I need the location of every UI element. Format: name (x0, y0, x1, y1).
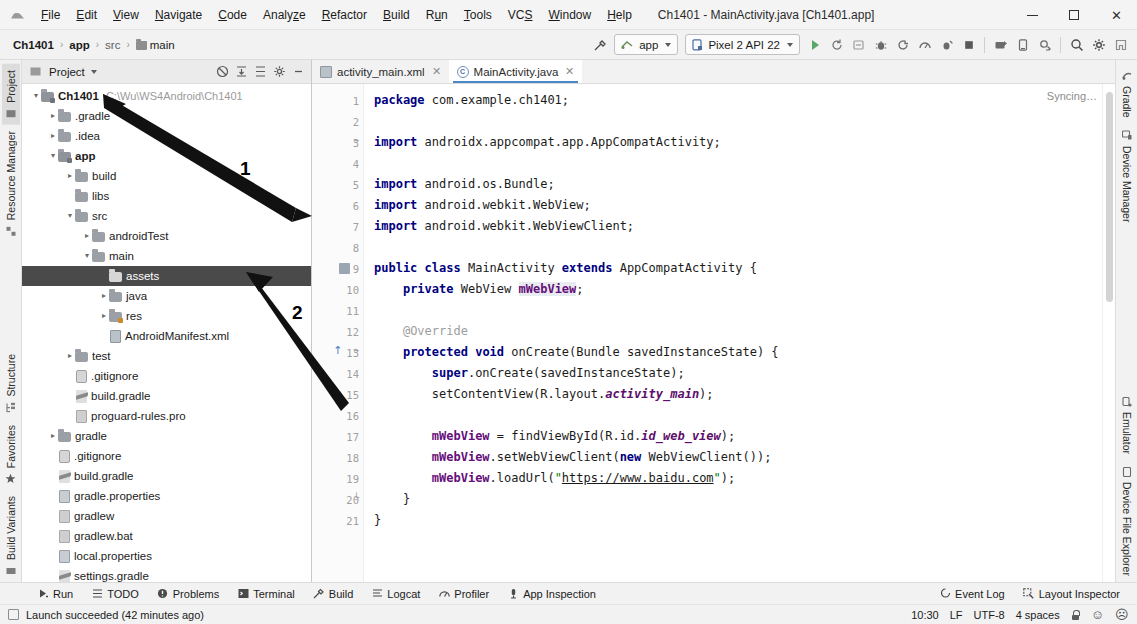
code-line[interactable]: } (374, 510, 1102, 531)
chevron-down-icon[interactable]: ▾ (81, 252, 92, 260)
tree-node-ch1401[interactable]: ▾Ch1401C:\Wu\WS4Android\Ch1401 (22, 86, 311, 106)
menu-run[interactable]: Run (418, 5, 456, 25)
menu-navigate[interactable]: Navigate (147, 5, 210, 25)
code-line[interactable]: public class MainActivity extends AppCom… (374, 258, 1102, 279)
menu-edit[interactable]: Edit (68, 5, 105, 25)
gutter-line[interactable]: 4 (312, 153, 363, 174)
breadcrumb-item-main[interactable]: main (133, 37, 178, 53)
sidebar-item-emulator[interactable]: Emulator (1118, 390, 1136, 460)
gutter-line[interactable]: 17 (312, 426, 363, 447)
tree-node-src[interactable]: ▾src (22, 206, 311, 226)
gutter-line[interactable]: 9 (312, 258, 363, 279)
chevron-down-icon[interactable]: ▾ (64, 212, 75, 220)
code-line[interactable]: mWebView.loadUrl("https://www.baidu.com"… (374, 468, 1102, 489)
code-line[interactable]: import android.webkit.WebViewClient; (374, 216, 1102, 237)
chevron-right-icon[interactable]: ▸ (47, 432, 58, 440)
code-line[interactable]: import android.webkit.WebView; (374, 195, 1102, 216)
class-marker-icon[interactable] (339, 263, 350, 274)
tree-node-androidmanifest-xml[interactable]: AndroidManifest.xml (22, 326, 311, 346)
code-line[interactable]: package com.example.ch1401; (374, 90, 1102, 111)
settings-gear-icon[interactable] (271, 63, 288, 80)
tree-node-build[interactable]: ▸build (22, 166, 311, 186)
code-line[interactable]: setContentView(R.layout.activity_main); (374, 384, 1102, 405)
chevron-right-icon[interactable]: ▸ (81, 232, 92, 240)
code-line[interactable]: protected void onCreate(Bundle savedInst… (374, 342, 1102, 363)
gutter-line[interactable]: 6 (312, 195, 363, 216)
project-structure-icon[interactable] (1110, 34, 1131, 55)
gutter-line[interactable]: 12 (312, 321, 363, 342)
tree-node-gradle[interactable]: ▸.gradle (22, 106, 311, 126)
bottom-item-todo[interactable]: TODO (82, 586, 148, 602)
menu-help[interactable]: Help (599, 5, 640, 25)
tree-node-settings-gradle[interactable]: settings.gradle (22, 566, 311, 582)
tree-node-gradle[interactable]: ▸gradle (22, 426, 311, 446)
code-line[interactable]: mWebView = findViewById(R.id.id_web_view… (374, 426, 1102, 447)
line-separator[interactable]: LF (950, 609, 963, 621)
sad-face-icon[interactable]: ☹ (1115, 607, 1129, 622)
breadcrumb-item-project[interactable]: Ch1401 (10, 37, 57, 53)
override-marker-icon[interactable] (332, 347, 343, 358)
search-icon[interactable] (1066, 34, 1087, 55)
code-line[interactable] (374, 111, 1102, 132)
tree-node-local-properties[interactable]: local.properties (22, 546, 311, 566)
tab-activity-main-xml[interactable]: activity_main.xml ✕ (312, 60, 449, 83)
minimize-button[interactable] (1011, 0, 1053, 30)
tree-node-res[interactable]: ▸res (22, 306, 311, 326)
chevron-right-icon[interactable]: ▸ (64, 172, 75, 180)
code-line[interactable]: @Override (374, 321, 1102, 342)
gutter-line[interactable]: 8 (312, 237, 363, 258)
gutter-line[interactable]: 19 (312, 468, 363, 489)
menu-analyze[interactable]: Analyze (255, 5, 314, 25)
code-line[interactable]: } (374, 489, 1102, 510)
tree-node-gitignore[interactable]: .gitignore (22, 366, 311, 386)
sidebar-item-build-variants[interactable]: Build Variants (2, 490, 20, 582)
code-line[interactable]: mWebView.setWebViewClient(new WebViewCli… (374, 447, 1102, 468)
tree-node-build-gradle[interactable]: build.gradle (22, 466, 311, 486)
tree-node-gradle-properties[interactable]: gradle.properties (22, 486, 311, 506)
sidebar-item-favorites[interactable]: Favorites (2, 419, 20, 490)
sdk-manager-icon[interactable] (1012, 34, 1033, 55)
menu-file[interactable]: File (33, 5, 68, 25)
menu-code[interactable]: Code (210, 5, 255, 25)
tree-node-gitignore[interactable]: .gitignore (22, 446, 311, 466)
expand-all-icon[interactable] (233, 63, 250, 80)
tree-node-app[interactable]: ▾app (22, 146, 311, 166)
bottom-item-terminal[interactable]: Terminal (228, 586, 304, 602)
code-line[interactable]: import android.os.Bundle; (374, 174, 1102, 195)
menu-build[interactable]: Build (375, 5, 418, 25)
collapse-all-icon[interactable] (252, 63, 269, 80)
code-editor[interactable]: 12⌐3456789101112⌐13141516171819└2021 pac… (312, 84, 1115, 582)
build-hammer-icon[interactable] (589, 34, 610, 55)
code-line[interactable] (374, 237, 1102, 258)
tree-node-gradlew-bat[interactable]: gradlew.bat (22, 526, 311, 546)
bottom-item-problems[interactable]: Problems (148, 586, 228, 602)
bottom-item-event-log[interactable]: Event Log (930, 586, 1014, 602)
code-line[interactable] (374, 153, 1102, 174)
settings-gear-icon[interactable] (1088, 34, 1109, 55)
apply-changes-icon[interactable] (848, 34, 869, 55)
gutter-line[interactable]: 1 (312, 90, 363, 111)
menu-tools[interactable]: Tools (456, 5, 500, 25)
avd-manager-icon[interactable] (990, 34, 1011, 55)
menu-view[interactable]: View (105, 5, 147, 25)
breadcrumb-item-module[interactable]: app (66, 37, 92, 53)
close-icon[interactable]: ✕ (432, 65, 441, 78)
gutter-line[interactable]: 14 (312, 363, 363, 384)
line-number-gutter[interactable]: 12⌐3456789101112⌐13141516171819└2021 (312, 84, 364, 582)
bottom-item-layout-inspector[interactable]: Layout Inspector (1014, 586, 1129, 602)
menu-vcs[interactable]: VCS (500, 5, 541, 25)
sidebar-item-project[interactable]: Project (2, 64, 20, 125)
tree-node-gradlew[interactable]: gradlew (22, 506, 311, 526)
tree-node-libs[interactable]: libs (22, 186, 311, 206)
chevron-down-icon[interactable]: ▾ (47, 152, 58, 160)
tab-mainactivity-java[interactable]: C MainActivity.java ✕ (449, 60, 583, 83)
run-configuration-selector[interactable]: app (614, 34, 678, 55)
close-icon[interactable]: ✕ (565, 65, 574, 78)
sidebar-item-device-manager[interactable]: Device Manager (1118, 124, 1136, 228)
editor-scrollbar[interactable] (1102, 84, 1115, 582)
code-line[interactable]: super.onCreate(savedInstanceState); (374, 363, 1102, 384)
collapse-scope-icon[interactable] (214, 63, 231, 80)
gutter-line[interactable]: 11 (312, 300, 363, 321)
background-tasks-icon[interactable] (8, 609, 19, 620)
indent-setting[interactable]: 4 spaces (1016, 609, 1060, 621)
